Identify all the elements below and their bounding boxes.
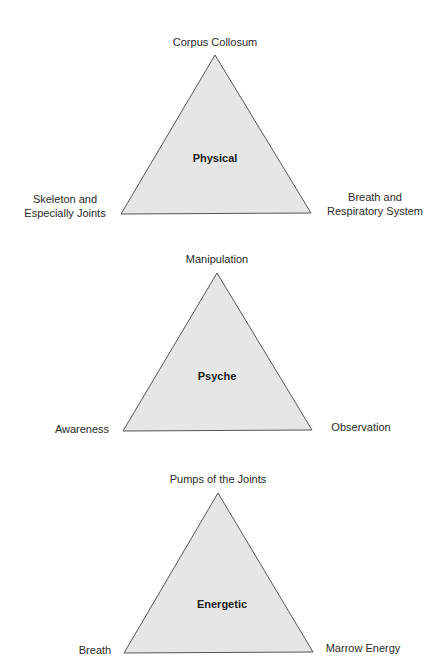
triangle-psyche bbox=[123, 273, 312, 431]
psyche-center-label: Psyche bbox=[177, 370, 257, 382]
psyche-left-label: Awareness bbox=[42, 422, 122, 436]
physical-right-label: Breath and Respiratory System bbox=[318, 190, 432, 218]
triangles-canvas bbox=[0, 0, 436, 662]
physical-right-line1: Breath and bbox=[318, 190, 432, 204]
physical-left-label: Skeleton and Especially Joints bbox=[10, 192, 120, 220]
energetic-center-label: Energetic bbox=[182, 598, 262, 610]
energetic-top-label: Pumps of the Joints bbox=[148, 472, 288, 486]
psyche-right-label: Observation bbox=[316, 420, 406, 434]
triangle-physical bbox=[121, 55, 311, 214]
energetic-left-label: Breath bbox=[70, 643, 120, 657]
psyche-top-label: Manipulation bbox=[152, 252, 282, 266]
physical-left-line2: Especially Joints bbox=[10, 206, 120, 220]
physical-right-line2: Respiratory System bbox=[318, 204, 432, 218]
physical-left-line1: Skeleton and bbox=[10, 192, 120, 206]
physical-center-label: Physical bbox=[175, 152, 255, 164]
energetic-right-label: Marrow Energy bbox=[318, 641, 408, 655]
physical-top-label: Corpus Collosum bbox=[150, 35, 280, 49]
triangle-energetic bbox=[124, 493, 313, 653]
